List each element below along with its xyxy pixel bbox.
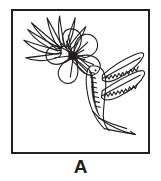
hummingbird-throat-shading	[89, 69, 101, 116]
hummingbird-flower-illustration	[13, 11, 148, 152]
figure-panel: A	[0, 0, 161, 181]
figure-panel-label: A	[0, 157, 161, 177]
illustration-frame	[11, 9, 150, 154]
